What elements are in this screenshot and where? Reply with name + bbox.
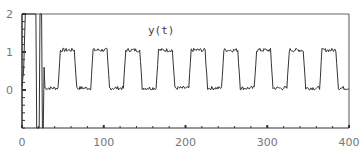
x-tick-label: 400	[339, 136, 360, 149]
x-tick-label: 200	[175, 136, 196, 149]
x-tick-label: 0	[19, 136, 26, 149]
y-tick-label: 2	[6, 8, 13, 21]
chart-title: y(t)	[148, 24, 175, 37]
x-tick-label: 100	[93, 136, 114, 149]
chart: 0100200300400012 y(t)	[0, 0, 363, 155]
axes	[22, 14, 349, 128]
ticks	[22, 14, 349, 128]
series-line-y	[22, 14, 349, 128]
y-tick-label: 1	[6, 46, 13, 59]
y-tick-label: 0	[6, 84, 13, 97]
x-tick-label: 300	[257, 136, 278, 149]
